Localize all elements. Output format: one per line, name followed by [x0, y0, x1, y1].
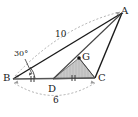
measure-label-ba: 10	[55, 30, 66, 39]
point-marker-g	[77, 56, 81, 60]
vertex-label-b: B	[3, 73, 10, 83]
measure-label-bc: 6	[53, 96, 59, 105]
vertex-label-a: A	[121, 6, 128, 16]
geometry-figure: A B C D G 10 6 30°	[0, 0, 138, 117]
vertex-label-c: C	[98, 73, 106, 83]
measure-arc-ba	[15, 12, 120, 76]
geometry-canvas	[0, 0, 138, 117]
segment-ac	[95, 13, 122, 78]
angle-label-b: 30°	[14, 50, 28, 58]
vertex-label-g: G	[82, 52, 90, 62]
vertex-label-d: D	[48, 84, 56, 94]
